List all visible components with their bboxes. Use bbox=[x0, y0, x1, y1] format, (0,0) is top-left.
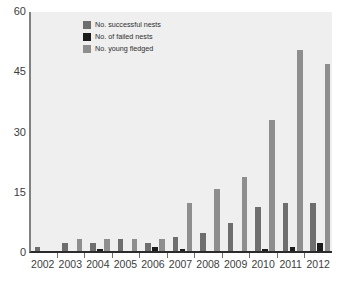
x-tick-label: 2003 bbox=[57, 258, 85, 270]
x-tick-label: 2011 bbox=[277, 258, 305, 270]
y-tick-label: 30 bbox=[0, 127, 26, 138]
x-tick-mark bbox=[304, 253, 305, 258]
x-tick-mark bbox=[112, 253, 113, 258]
bar bbox=[228, 223, 234, 251]
bar bbox=[297, 50, 303, 251]
bar bbox=[242, 177, 248, 251]
legend-swatch-icon bbox=[83, 21, 91, 29]
y-axis: 604530150 bbox=[0, 0, 26, 283]
x-tick-mark bbox=[84, 253, 85, 258]
bar bbox=[255, 207, 261, 251]
legend-label: No. successful nests bbox=[95, 21, 161, 29]
x-tick-label: 2005 bbox=[112, 258, 140, 270]
x-tick-mark bbox=[194, 253, 195, 258]
bar bbox=[262, 249, 268, 251]
bar bbox=[97, 249, 103, 251]
bar bbox=[62, 243, 68, 251]
bar bbox=[269, 120, 275, 251]
x-tick-mark bbox=[139, 253, 140, 258]
bar bbox=[145, 243, 151, 251]
x-tick-mark bbox=[167, 253, 168, 258]
x-tick-mark bbox=[57, 253, 58, 258]
bar bbox=[173, 237, 179, 251]
bar bbox=[90, 243, 96, 251]
legend-label: No. of failed nests bbox=[95, 33, 153, 41]
y-tick-label: 0 bbox=[0, 247, 26, 258]
legend-item: No. successful nests bbox=[83, 19, 183, 30]
x-tick-mark bbox=[277, 253, 278, 258]
bar bbox=[118, 239, 124, 251]
bar bbox=[77, 239, 83, 251]
bar-chart: 604530150 200220032004200520062007200820… bbox=[0, 0, 340, 283]
x-tick-mark bbox=[222, 253, 223, 258]
x-tick-label: 2008 bbox=[194, 258, 222, 270]
legend-swatch-icon bbox=[83, 33, 91, 41]
x-tick-label: 2007 bbox=[167, 258, 195, 270]
bar bbox=[35, 247, 41, 251]
x-tick-mark bbox=[249, 253, 250, 258]
x-tick-label: 2006 bbox=[139, 258, 167, 270]
x-tick-label: 2009 bbox=[222, 258, 250, 270]
y-tick-label: 45 bbox=[0, 66, 26, 77]
x-axis: 2002200320042005200620072008200920102011… bbox=[29, 258, 332, 278]
bar bbox=[187, 203, 193, 251]
bar bbox=[214, 189, 220, 251]
legend-label: No. young fledged bbox=[95, 45, 153, 53]
bar bbox=[132, 239, 138, 251]
x-tick-label: 2010 bbox=[249, 258, 277, 270]
bar bbox=[317, 243, 323, 251]
y-tick-label: 60 bbox=[0, 6, 26, 17]
x-tick-label: 2004 bbox=[84, 258, 112, 270]
bar bbox=[325, 64, 331, 251]
bar bbox=[152, 247, 158, 251]
legend-item: No. of failed nests bbox=[83, 31, 183, 42]
y-tick-label: 15 bbox=[0, 187, 26, 198]
bar bbox=[283, 203, 289, 251]
legend: No. successful nestsNo. of failed nestsN… bbox=[83, 19, 183, 55]
bar bbox=[200, 233, 206, 251]
x-tick-label: 2002 bbox=[29, 258, 57, 270]
bar bbox=[310, 203, 316, 251]
x-tick-label: 2012 bbox=[304, 258, 332, 270]
bar bbox=[290, 247, 296, 251]
legend-swatch-icon bbox=[83, 45, 91, 53]
legend-item: No. young fledged bbox=[83, 43, 183, 54]
bar bbox=[104, 239, 110, 251]
bar bbox=[180, 249, 186, 251]
bar bbox=[159, 239, 165, 251]
